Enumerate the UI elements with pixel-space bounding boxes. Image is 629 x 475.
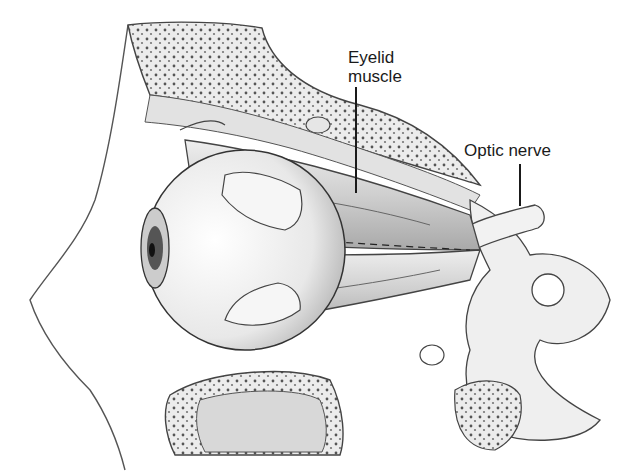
label-optic-nerve: Optic nerve (464, 141, 551, 160)
eyeball (145, 150, 345, 350)
leader-line-optic-nerve (519, 164, 521, 206)
face-profile (30, 25, 128, 470)
eye-orbit-illustration (0, 0, 629, 475)
label-eyelid-line1: Eyelid (348, 48, 402, 67)
label-eyelid-line2: muscle (348, 67, 402, 86)
anatomy-figure: Eyelid muscle Optic nerve (0, 0, 629, 475)
leader-line-eyelid-muscle (355, 87, 357, 193)
label-eyelid-muscle: Eyelid muscle (348, 48, 402, 86)
lower-orbital-bone (165, 372, 343, 455)
cornea-iris (141, 208, 169, 288)
